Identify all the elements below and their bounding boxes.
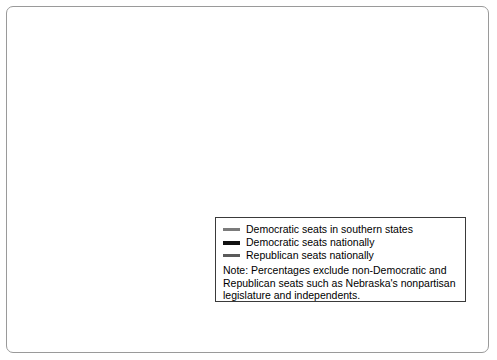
legend-entry-southern-democrats: Democratic seats in southern states	[223, 223, 458, 236]
legend-label-republicans-nationally: Republican seats nationally	[246, 249, 374, 262]
legend-entry-democrats-nationally: Democratic seats nationally	[223, 236, 458, 249]
legend-label-democrats-nationally: Democratic seats nationally	[246, 236, 374, 249]
legend-swatch-republicans-nationally	[223, 254, 240, 257]
legend-entry-republicans-nationally: Republican seats nationally	[223, 249, 458, 262]
chart-legend: Democratic seats in southern states Demo…	[215, 217, 466, 302]
legend-swatch-democrats-nationally	[223, 241, 240, 245]
legend-swatch-southern-democrats	[223, 228, 240, 231]
legend-label-southern-democrats: Democratic seats in southern states	[246, 223, 413, 236]
chart-container: 0102030405060708090100194219501958196619…	[0, 0, 497, 360]
legend-note: Note: Percentages exclude non-Democratic…	[223, 264, 458, 302]
